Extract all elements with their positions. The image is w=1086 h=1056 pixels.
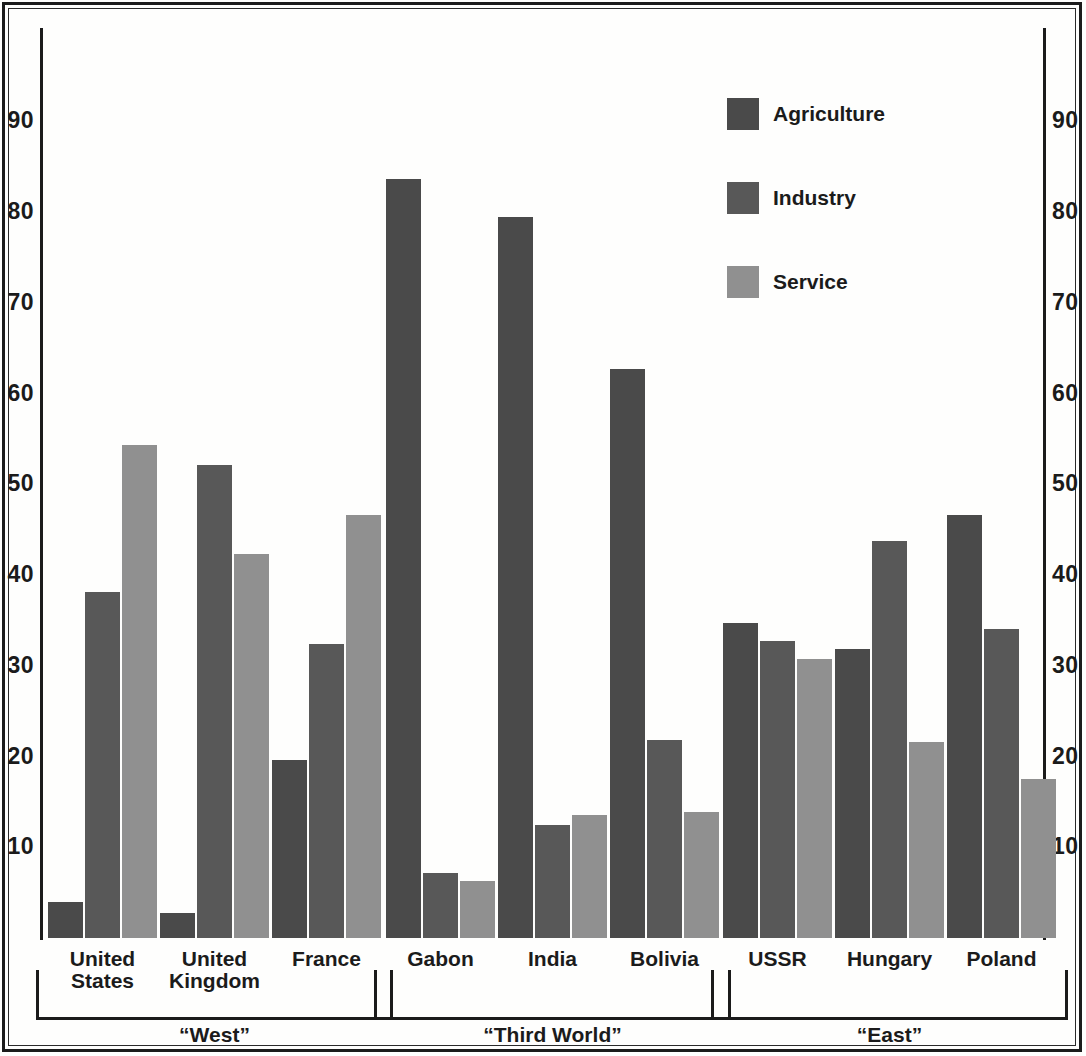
bar-poland-industry [984, 629, 1019, 938]
bar-hungary-industry [872, 541, 907, 938]
legend-label-service: Service [773, 270, 848, 294]
bar-gabon-industry [423, 873, 458, 938]
bar-united-states-service [122, 445, 157, 938]
group-bracket-2 [711, 970, 1068, 1020]
bar-bolivia-agriculture [610, 369, 645, 938]
bar-united-kingdom-industry [197, 465, 232, 938]
bar-hungary-service [909, 742, 944, 938]
bar-poland-service [1021, 779, 1056, 938]
legend-label-agriculture: Agriculture [773, 102, 885, 126]
legend-swatch-agriculture-icon [727, 98, 759, 130]
bar-ussr-service [797, 659, 832, 939]
group-bracket-1 [374, 970, 731, 1020]
group-label-2: “East” [711, 1023, 1068, 1047]
plot-area: 908070605040302010 908070605040302010 Un… [0, 0, 1086, 1056]
bar-india-service [572, 815, 607, 938]
bar-chart-figure: 908070605040302010 908070605040302010 Un… [0, 0, 1086, 1056]
bar-united-kingdom-agriculture [160, 913, 195, 938]
group-label-1: “Third World” [374, 1023, 731, 1047]
bars-layer [0, 0, 1086, 938]
bar-bolivia-industry [647, 740, 682, 938]
bar-united-kingdom-service [234, 554, 269, 938]
legend-swatch-industry-icon [727, 182, 759, 214]
bar-bolivia-service [684, 812, 719, 938]
bar-gabon-agriculture [386, 179, 421, 938]
legend-label-industry: Industry [773, 186, 856, 210]
bar-united-states-agriculture [48, 902, 83, 938]
bar-poland-agriculture [947, 515, 982, 938]
group-bracket-0 [36, 970, 393, 1020]
category-label-poland: Poland [922, 948, 1082, 970]
bar-france-agriculture [272, 760, 307, 938]
bar-united-states-industry [85, 592, 120, 938]
bar-ussr-industry [760, 641, 795, 938]
bar-india-industry [535, 825, 570, 938]
bar-gabon-service [460, 881, 495, 938]
bar-france-industry [309, 644, 344, 938]
bar-france-service [346, 515, 381, 938]
legend-swatch-service-icon [727, 266, 759, 298]
bar-india-agriculture [498, 217, 533, 938]
bar-hungary-agriculture [835, 649, 870, 938]
bar-ussr-agriculture [723, 623, 758, 938]
group-label-0: “West” [36, 1023, 393, 1047]
